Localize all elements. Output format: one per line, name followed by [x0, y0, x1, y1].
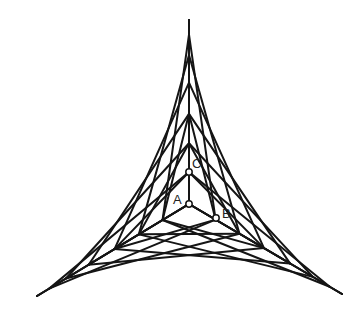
envelope-line [37, 204, 189, 296]
grid-line [139, 234, 240, 235]
point-a-marker [186, 201, 192, 207]
point-a-label: A [173, 192, 182, 207]
mesh-lines [37, 20, 342, 296]
point-c-label: C [192, 156, 201, 171]
envelope-line [189, 204, 342, 294]
point-b-marker [213, 215, 219, 221]
deltoid-string-art-diagram: ABC [0, 0, 361, 323]
envelope-line [49, 172, 189, 289]
point-b-label: B [222, 206, 231, 221]
envelope-line [189, 172, 330, 287]
